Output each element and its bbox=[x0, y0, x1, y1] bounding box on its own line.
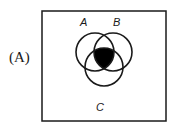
set-label-b: B bbox=[113, 16, 120, 28]
venn-diagram: A B C bbox=[0, 0, 174, 127]
set-label-c: C bbox=[96, 101, 104, 113]
set-label-a: A bbox=[79, 16, 87, 28]
